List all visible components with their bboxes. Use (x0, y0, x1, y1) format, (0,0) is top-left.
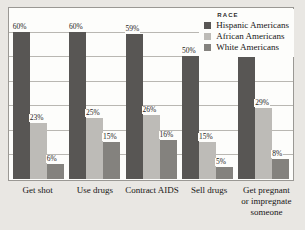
x-axis-category-line: Get pregnant (238, 185, 295, 196)
legend-swatch-icon (204, 22, 211, 29)
x-axis-category-label: Get pregnantor impregnatesomeone (238, 185, 295, 218)
bar (30, 123, 47, 180)
bar (255, 108, 272, 179)
bar (238, 56, 255, 179)
bar-value-label: 5% (215, 158, 227, 166)
x-axis-category-label: Contract AIDS (123, 185, 180, 218)
bar (272, 159, 289, 179)
bar-container: 25% (86, 9, 103, 179)
x-axis-category-line: Contract AIDS (123, 185, 180, 196)
x-axis-category-label: Use drugs (66, 185, 123, 218)
bar-container: 60% (13, 9, 30, 179)
bar-value-label: 25% (85, 109, 101, 117)
bar-container: 16% (160, 9, 177, 179)
bar (126, 34, 143, 179)
legend-swatch-icon (204, 33, 211, 40)
bar (160, 140, 177, 179)
x-axis-labels: Get shotUse drugsContract AIDSSell drugs… (9, 185, 295, 218)
chart-legend: RACE Hispanic Americans African American… (199, 9, 294, 57)
bar-value-label: 15% (198, 133, 214, 141)
x-axis-category-line: Sell drugs (181, 185, 238, 196)
legend-item-label: White Americans (216, 42, 279, 52)
legend-title: RACE (217, 12, 289, 18)
chart-figure: 60%23%6%60%25%15%59%26%16%50%15%5%50%29%… (8, 7, 296, 223)
legend-item-hispanic-americans: Hispanic Americans (204, 20, 289, 30)
bar-container: 59% (126, 9, 143, 179)
bar-value-label: 6% (46, 155, 58, 163)
bar (182, 56, 199, 179)
x-axis-category-line: someone (238, 207, 295, 218)
bar-container: 60% (69, 9, 86, 179)
bar-value-label: 29% (254, 99, 270, 107)
bar (13, 32, 30, 179)
x-axis-category-label: Sell drugs (181, 185, 238, 218)
bar-value-label: 23% (29, 114, 45, 122)
x-axis-category-line: Use drugs (66, 185, 123, 196)
legend-item-african-americans: African Americans (204, 31, 289, 41)
bar-container: 6% (47, 9, 64, 179)
x-axis-category-label: Get shot (9, 185, 66, 218)
bar (216, 167, 233, 179)
bar-container: 23% (30, 9, 47, 179)
bar (47, 164, 64, 179)
bar-value-label: 50% (181, 47, 197, 55)
x-axis-category-line: Get shot (9, 185, 66, 196)
bar-value-label: 59% (125, 25, 141, 33)
bar (143, 115, 160, 179)
x-axis-category-line: or impregnate (238, 196, 295, 207)
bar (69, 32, 86, 179)
bar-group: 59%26%16% (123, 9, 179, 179)
legend-item-white-americans: White Americans (204, 42, 289, 52)
bar-container: 15% (103, 9, 120, 179)
bar-value-label: 16% (159, 131, 175, 139)
bar-group: 60%25%15% (66, 9, 122, 179)
legend-item-label: African Americans (216, 31, 284, 41)
bar (199, 142, 216, 179)
bar (103, 142, 120, 179)
bar (86, 118, 103, 179)
bar-value-label: 8% (271, 150, 283, 158)
bar-group: 60%23%6% (10, 9, 66, 179)
bar-container: 50% (182, 9, 199, 179)
bar-value-label: 60% (68, 23, 84, 31)
legend-item-label: Hispanic Americans (216, 20, 289, 30)
bar-value-label: 26% (142, 106, 158, 114)
bar-value-label: 60% (12, 23, 28, 31)
legend-swatch-icon (204, 44, 211, 51)
bar-value-label: 15% (102, 133, 118, 141)
bar-container: 26% (143, 9, 160, 179)
